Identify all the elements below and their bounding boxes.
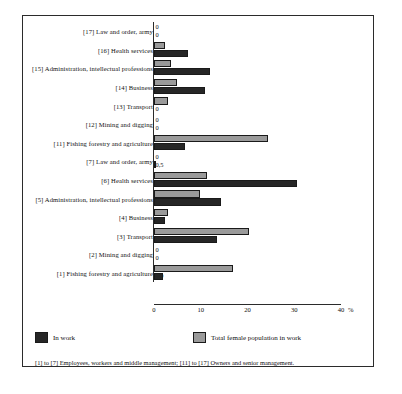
bar-total-female (154, 42, 165, 49)
chart-row: [16] Health services2,37,2 (23, 41, 375, 60)
x-axis-tick-label: 20 (244, 306, 251, 313)
x-axis-tick-label: 40 (338, 306, 345, 313)
category-label: [15] Administration, intellectual profes… (32, 65, 153, 72)
bar-group (154, 134, 375, 153)
category-label: [14] Business (116, 84, 153, 91)
chart-footnote: [1] to [7] Employees, workers and middle… (35, 359, 365, 366)
chart-row: [1] Fishing forestry and agriculture171,… (23, 264, 375, 283)
category-label: [3] Transport (117, 232, 153, 239)
legend-label-in-work: In work (53, 334, 75, 342)
chart-row: [2] Mining and digging00 (23, 245, 375, 264)
x-axis-unit-label: % (348, 306, 354, 313)
chart-row: [13] Transport30 (23, 96, 375, 115)
chart-frame: [17] Law and order, army00[16] Health se… (22, 15, 374, 367)
category-label: [12] Mining and digging (86, 121, 153, 128)
chart-row: [5] Administration, intellectual profess… (23, 189, 375, 208)
bar-group (154, 245, 375, 264)
chart-row: [4] Business32,4 (23, 208, 375, 227)
chart-row: [17] Law and order, army00 (23, 22, 375, 41)
bar-total-female (154, 265, 233, 272)
x-axis-tick-label: 30 (291, 306, 298, 313)
chart-plot-area: [17] Law and order, army00[16] Health se… (23, 22, 375, 304)
bar-in-work (154, 87, 205, 94)
bar-group (154, 171, 375, 190)
chart-row: [14] Business4,911 (23, 78, 375, 97)
category-label: [13] Transport (114, 102, 153, 109)
bar-group (154, 78, 375, 97)
bar-group (154, 115, 375, 134)
bar-in-work (154, 68, 210, 75)
legend-item-total-female: Total female population in work (193, 332, 301, 343)
bar-total-female (154, 79, 177, 86)
x-axis-tick-label: 10 (197, 306, 204, 313)
category-label: [11] Fishing forestry and agriculture (54, 139, 153, 146)
bar-in-work (154, 180, 297, 187)
category-label: [2] Mining and digging (89, 251, 153, 258)
bar-group (154, 59, 375, 78)
bar-total-female (154, 228, 249, 235)
bar-total-female (154, 172, 207, 179)
bar-in-work (154, 50, 188, 57)
bar-group (154, 227, 375, 246)
bar-group (154, 22, 375, 41)
bar-total-female (154, 190, 200, 197)
bar-group (154, 189, 375, 208)
category-label: [4] Business (119, 214, 153, 221)
bar-in-work (154, 236, 217, 243)
chart-row: [7] Law and order, army00,5 (23, 152, 375, 171)
chart-row: [15] Administration, intellectual profes… (23, 59, 375, 78)
bar-in-work (154, 198, 221, 205)
bar-total-female (154, 97, 168, 104)
category-label: [16] Health services (98, 46, 153, 53)
category-label: [7] Law and order, army (86, 158, 153, 165)
category-label: [6] Health services (101, 177, 153, 184)
legend-swatch-total-female (193, 332, 206, 343)
bar-total-female (154, 135, 268, 142)
x-axis-line (154, 304, 341, 305)
x-axis-tick-label: 0 (152, 306, 155, 313)
legend-swatch-in-work (35, 332, 48, 343)
chart-row: [3] Transport20,413,4 (23, 227, 375, 246)
category-label: [5] Administration, intellectual profess… (35, 195, 153, 202)
legend-label-total-female: Total female population in work (211, 334, 301, 342)
bar-in-work (154, 217, 165, 224)
bar-group (154, 152, 375, 171)
chart-row: [6] Health services11,430,6 (23, 171, 375, 190)
bar-in-work (154, 161, 156, 168)
bar-group (154, 41, 375, 60)
category-label: [17] Law and order, army (83, 28, 153, 35)
category-label: [1] Fishing forestry and agriculture (57, 270, 153, 277)
bar-in-work (154, 273, 163, 280)
bar-group (154, 264, 375, 283)
bar-in-work (154, 143, 185, 150)
bar-group (154, 208, 375, 227)
chart-row: [12] Mining and digging00 (23, 115, 375, 134)
bar-total-female (154, 209, 168, 216)
bar-group (154, 96, 375, 115)
legend-item-in-work: In work (35, 332, 75, 343)
bar-total-female (154, 60, 171, 67)
chart-row: [11] Fishing forestry and agriculture24,… (23, 134, 375, 153)
